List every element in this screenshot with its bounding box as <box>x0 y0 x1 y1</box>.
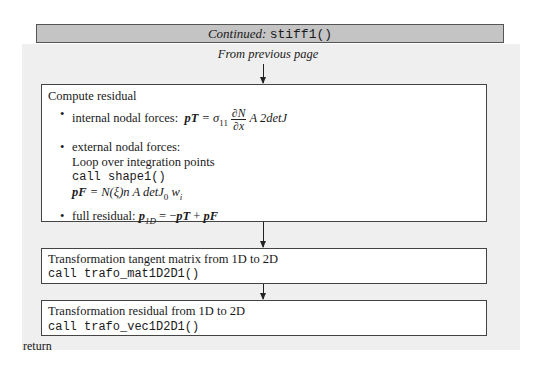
external-forces-item: external nodal forces: Loop over integra… <box>60 140 287 205</box>
internal-forces-item: internal nodal forces: pT = σ11 ∂N∂x A 2… <box>60 107 287 132</box>
box-title: Transformation tangent matrix from 1D to… <box>48 252 278 267</box>
function-name: stiff1() <box>270 27 332 42</box>
arrow-down-icon <box>263 284 264 299</box>
from-previous-page: From previous page <box>0 47 536 62</box>
call-statement: call trafo_mat1D2D1() <box>48 267 199 281</box>
residual-transform-box: Transformation residual from 1D to 2D ca… <box>41 300 487 336</box>
full-residual-item: full residual: p1D = −pT + pF <box>60 209 287 229</box>
residual-steps: internal nodal forces: pT = σ11 ∂N∂x A 2… <box>60 107 287 234</box>
continued-label: Continued: <box>208 26 267 41</box>
fraction: ∂N∂x <box>231 107 246 132</box>
continued-header: Continued: stiff1() <box>36 24 504 43</box>
box-title: Transformation residual from 1D to 2D <box>48 304 245 319</box>
box-title: Compute residual <box>48 89 137 104</box>
tangent-matrix-box: Transformation tangent matrix from 1D to… <box>41 248 487 284</box>
call-statement: call trafo_vec1D2D1() <box>48 320 199 334</box>
return-label: return <box>23 339 52 354</box>
compute-residual-box: Compute residual internal nodal forces: … <box>41 84 487 222</box>
arrow-down-icon <box>263 222 264 247</box>
arrow-down-icon <box>263 64 264 83</box>
